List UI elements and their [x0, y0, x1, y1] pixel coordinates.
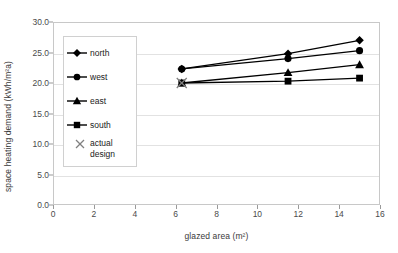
legend-item-actual-design[interactable]: actualdesign [64, 137, 136, 161]
diamond-marker-icon [64, 46, 90, 60]
x-tick-mark [298, 205, 299, 209]
x-marker-icon [64, 137, 90, 151]
y-tick-mark [49, 83, 53, 84]
square-marker-icon [64, 118, 90, 132]
legend-item-west[interactable]: west [64, 65, 136, 89]
legend-item-south[interactable]: south [64, 113, 136, 137]
legend-label: east [90, 96, 106, 106]
x-tick-mark [217, 205, 218, 209]
x-tick-label: 14 [334, 209, 343, 219]
legend-label: actualdesign [90, 138, 115, 159]
x-tick-label: 12 [294, 209, 303, 219]
chart-container: space heating demand (kWh/m²a) 0.05.010.… [0, 0, 398, 253]
legend-label: west [90, 72, 107, 82]
triangle-marker-icon [64, 94, 90, 108]
y-tick-mark [49, 144, 53, 145]
legend-item-east[interactable]: east [64, 89, 136, 113]
x-axis-tick-labels: 0246810121416 [0, 0, 398, 253]
x-tick-label: 8 [214, 209, 219, 219]
legend-label: north [90, 48, 109, 58]
x-tick-mark [53, 205, 54, 209]
x-tick-mark [257, 205, 258, 209]
x-tick-label: 4 [132, 209, 137, 219]
y-tick-mark [49, 174, 53, 175]
x-tick-mark [339, 205, 340, 209]
x-tick-label: 0 [51, 209, 56, 219]
legend-label: south [90, 120, 111, 130]
x-tick-mark [176, 205, 177, 209]
x-tick-label: 10 [253, 209, 262, 219]
y-tick-mark [49, 113, 53, 114]
circle-marker-icon [64, 70, 90, 84]
x-tick-label: 2 [92, 209, 97, 219]
x-tick-label: 6 [173, 209, 178, 219]
x-axis-title: glazed area (m²) [53, 231, 380, 241]
y-tick-mark [49, 22, 53, 23]
legend-item-north[interactable]: north [64, 41, 136, 65]
x-tick-mark [94, 205, 95, 209]
x-tick-mark [135, 205, 136, 209]
chart-legend: northwesteastsouthactualdesign [63, 36, 137, 167]
x-tick-mark [380, 205, 381, 209]
y-tick-mark [49, 52, 53, 53]
x-tick-label: 16 [375, 209, 384, 219]
